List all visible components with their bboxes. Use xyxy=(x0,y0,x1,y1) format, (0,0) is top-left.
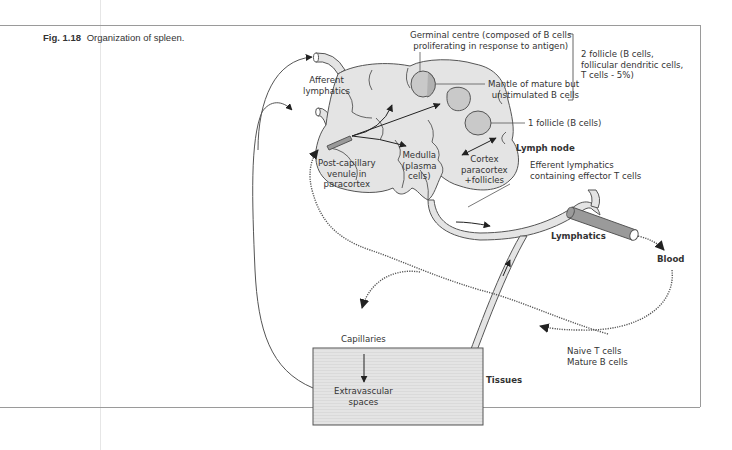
efferent-line-2: containing effector T cells xyxy=(530,171,641,182)
cortex-line-1: Cortex xyxy=(461,154,508,165)
mantle-line-2: unstimulated B cells xyxy=(488,90,579,101)
naive-line-2: Mature B cells xyxy=(567,357,628,368)
tissues-label: Tissues xyxy=(486,375,522,386)
afferent-lymphatics-label: Afferent lymphatics xyxy=(303,75,350,96)
secondary-follicle-label: 2 follicle (B cells, follicular dendriti… xyxy=(581,49,683,81)
follicle-middle xyxy=(447,87,470,110)
post-capillary-line-1: Post-capillary xyxy=(318,158,376,169)
afferent-line-2: lymphatics xyxy=(303,86,350,97)
post-capillary-venule-label: Post-capillary venule in paracortex xyxy=(318,158,376,190)
post-capillary-line-2: venule in xyxy=(318,169,376,180)
afferent-top-arrow xyxy=(258,57,312,150)
medulla-label: Medulla (plasma cells) xyxy=(402,150,437,182)
extravascular-line-2: spaces xyxy=(334,397,393,408)
blood-label: Blood xyxy=(657,254,684,265)
lymphatics-label: Lymphatics xyxy=(551,231,606,242)
return-lymph-loop xyxy=(253,103,313,388)
germinal-centre-label: Germinal centre (composed of B cells pro… xyxy=(410,30,571,51)
cortex-line-3: +follicles xyxy=(461,175,508,186)
post-capillary-line-3: paracortex xyxy=(318,179,376,190)
secondary-follicle-line-1: 2 follicle (B cells, xyxy=(581,49,683,60)
cortex-label: Cortex paracortex +follicles xyxy=(461,154,508,186)
secondary-follicle xyxy=(411,71,435,97)
capillaries-label: Capillaries xyxy=(341,334,386,345)
medulla-line-2: (plasma xyxy=(402,161,437,172)
lymph-node-label: Lymph node xyxy=(516,143,575,154)
afferent-vessel-top xyxy=(316,53,345,74)
blood-to-tissues-path xyxy=(540,270,672,330)
germinal-centre-line-1: Germinal centre (composed of B cells xyxy=(410,30,571,41)
medulla-line-1: Medulla xyxy=(402,150,437,161)
extravascular-line-1: Extravascular xyxy=(334,386,393,397)
afferent-line-1: Afferent xyxy=(303,75,350,86)
primary-follicle-label: 1 follicle (B cells) xyxy=(528,118,601,129)
secondary-follicle-line-2: follicular dendritic cells, xyxy=(581,60,683,71)
efferent-line-1: Efferent lymphatics xyxy=(530,160,641,171)
mantle-line-1: Mantle of mature but xyxy=(488,79,579,90)
germinal-centre-line-2: proliferating in response to antigen) xyxy=(410,41,571,52)
naive-line-1: Naive T cells xyxy=(567,346,628,357)
medulla-line-3: cells) xyxy=(402,171,437,182)
mantle-label: Mantle of mature but unstimulated B cell… xyxy=(488,79,579,100)
lymphatics-to-blood-path xyxy=(638,236,664,250)
secondary-follicle-line-3: T cells - 5%) xyxy=(581,70,683,81)
cortex-line-2: paracortex xyxy=(461,165,508,176)
naive-cells-label: Naive T cells Mature B cells xyxy=(567,346,628,367)
efferent-lymphatics-label: Efferent lymphatics containing effector … xyxy=(530,160,641,181)
extravascular-spaces-label: Extravascular spaces xyxy=(334,386,393,407)
primary-follicle xyxy=(465,111,491,135)
capillaries-branch-path xyxy=(362,271,420,308)
